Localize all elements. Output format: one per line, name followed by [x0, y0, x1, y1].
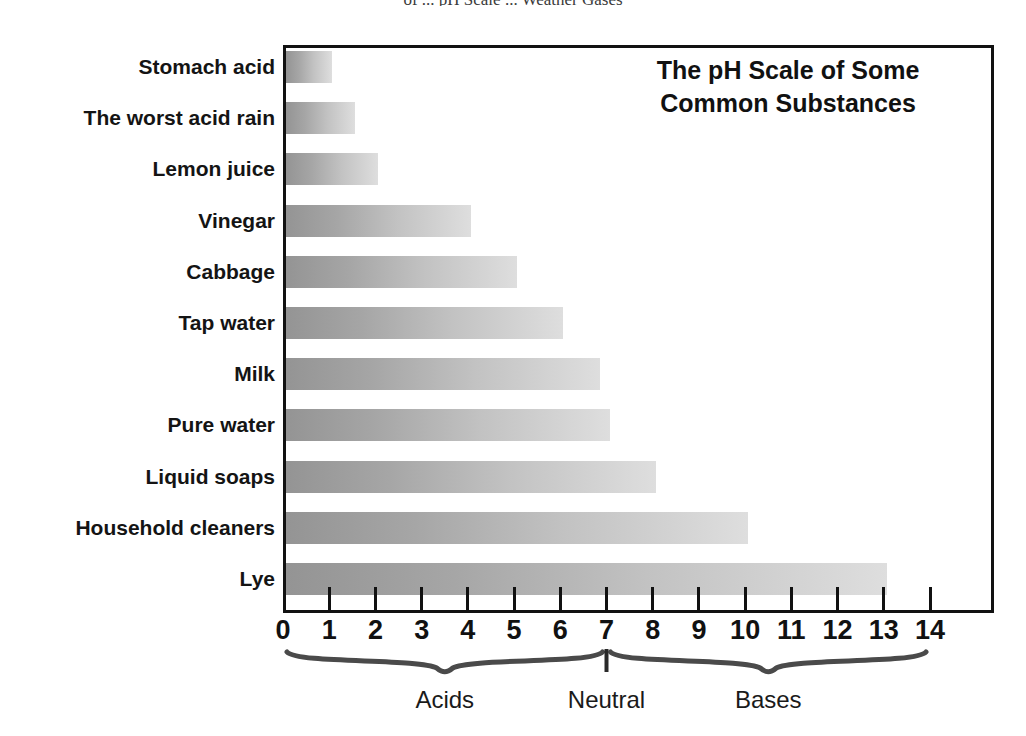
- x-tick-label: 11: [768, 615, 814, 646]
- bar: [286, 512, 748, 544]
- bar-row: [286, 358, 600, 390]
- category-label: Lye: [0, 563, 275, 595]
- bar: [286, 461, 656, 493]
- bar: [286, 409, 610, 441]
- x-tick-label: 4: [445, 615, 491, 646]
- category-label: Milk: [0, 358, 275, 390]
- bar-row: [286, 512, 748, 544]
- category-label: The worst acid rain: [0, 102, 275, 134]
- x-tick-label: 2: [352, 615, 398, 646]
- bar: [286, 153, 378, 185]
- category-label: Household cleaners: [0, 512, 275, 544]
- category-label: Vinegar: [0, 205, 275, 237]
- x-tick-label: 5: [491, 615, 537, 646]
- bar: [286, 563, 887, 595]
- category-label: Liquid soaps: [0, 461, 275, 493]
- category-labels: Stomach acidThe worst acid rainLemon jui…: [0, 45, 275, 613]
- ph-region-braces: [0, 648, 1026, 688]
- category-label: Pure water: [0, 409, 275, 441]
- bar: [286, 358, 600, 390]
- x-tick-label: 8: [630, 615, 676, 646]
- bar-row: [286, 307, 563, 339]
- bar: [286, 307, 563, 339]
- bar-row: [286, 563, 887, 595]
- category-label: Stomach acid: [0, 51, 275, 83]
- bar-row: [286, 256, 517, 288]
- bar: [286, 102, 355, 134]
- bar: [286, 205, 471, 237]
- category-label: Cabbage: [0, 256, 275, 288]
- x-tick-label: 13: [861, 615, 907, 646]
- bar-row: [286, 461, 656, 493]
- category-label: Lemon juice: [0, 153, 275, 185]
- x-tick-label: 7: [584, 615, 630, 646]
- x-tick-label: 9: [676, 615, 722, 646]
- brace-graphics: [0, 648, 1026, 688]
- bar-row: [286, 409, 610, 441]
- region-label: Bases: [735, 686, 802, 714]
- category-label: Tap water: [0, 307, 275, 339]
- x-tick-label: 0: [260, 615, 306, 646]
- bar-row: [286, 102, 355, 134]
- bar: [286, 51, 332, 83]
- x-tick-label: 1: [306, 615, 352, 646]
- x-tick-label: 10: [722, 615, 768, 646]
- bar-row: [286, 51, 332, 83]
- x-tick-label: 3: [399, 615, 445, 646]
- region-label: Acids: [415, 686, 474, 714]
- x-tick-label: 6: [537, 615, 583, 646]
- ph-scale-bar-chart: The pH Scale of Some Common Substances S…: [0, 0, 1026, 736]
- region-label: Neutral: [568, 686, 645, 714]
- bar: [286, 256, 517, 288]
- region-brace: [287, 652, 603, 672]
- bars-layer: [286, 45, 991, 613]
- x-tick-label: 14: [907, 615, 953, 646]
- bar-row: [286, 153, 378, 185]
- x-tick-label: 12: [815, 615, 861, 646]
- bar-row: [286, 205, 471, 237]
- region-brace: [611, 652, 927, 672]
